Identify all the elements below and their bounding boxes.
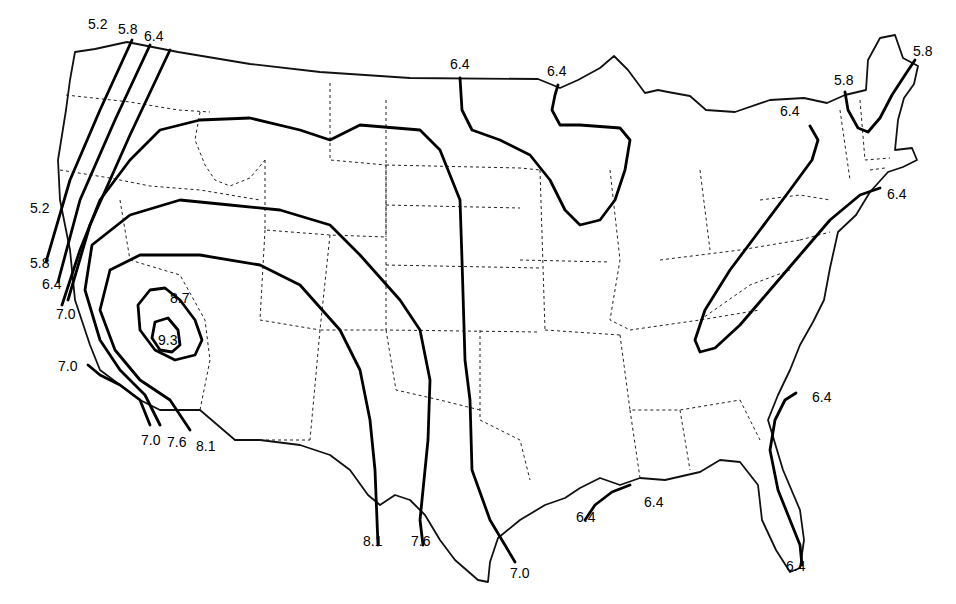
contour-label: 7.0 <box>510 565 530 581</box>
contour-label: 6.4 <box>812 389 832 405</box>
contour-label: 7.6 <box>411 533 431 549</box>
contour-label: 5.8 <box>30 255 50 271</box>
contour-label: 9.3 <box>158 332 178 348</box>
contour-label: 8.1 <box>363 533 383 549</box>
contour-label: 5.8 <box>118 21 138 37</box>
map-background <box>0 0 956 604</box>
contour-label: 5.8 <box>913 43 933 59</box>
contour-label: 5.2 <box>30 200 50 216</box>
contour-label: 6.4 <box>780 103 800 119</box>
contour-label: 5.2 <box>88 16 108 32</box>
contour-label: 6.4 <box>644 494 664 510</box>
contour-label: 7.0 <box>56 306 76 322</box>
contour-label: 8.1 <box>196 438 216 454</box>
contour-label: 7.0 <box>58 358 78 374</box>
contour-label: 6.4 <box>547 63 567 79</box>
us-contour-map: 5.25.86.45.25.86.47.07.08.79.37.07.68.16… <box>0 0 956 604</box>
contour-label: 6.4 <box>576 509 596 525</box>
contour-label: 7.6 <box>167 434 187 450</box>
contour-label: 7.0 <box>141 432 161 448</box>
contour-label: 6.4 <box>887 186 907 202</box>
contour-label: 6.4 <box>144 28 164 44</box>
contour-label: 5.8 <box>834 72 854 88</box>
contour-label: 8.7 <box>170 290 190 306</box>
contour-label: 6.4 <box>450 56 470 72</box>
contour-label: 6.4 <box>786 558 806 574</box>
contour-label: 6.4 <box>42 276 62 292</box>
